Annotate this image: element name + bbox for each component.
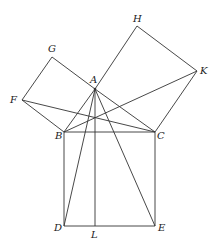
segment-AD: [64, 89, 95, 226]
label-point-g: G: [48, 44, 56, 54]
segment-AG: [52, 57, 95, 89]
segment-FC: [22, 100, 155, 132]
label-point-d: D: [54, 223, 62, 233]
label-point-e: E: [158, 223, 165, 233]
label-point-a: A: [90, 75, 97, 85]
vertex-a-dot: [94, 88, 97, 91]
label-point-f: F: [10, 95, 17, 105]
label-point-c: C: [157, 131, 165, 141]
label-point-b: B: [55, 131, 62, 141]
label-point-h: H: [133, 14, 142, 24]
segment-AH: [95, 26, 137, 89]
pythagorean-figure: [0, 0, 212, 244]
segment-BK: [64, 71, 197, 132]
segment-AE: [95, 89, 155, 226]
segment-HK: [137, 26, 197, 71]
label-point-l: L: [91, 230, 98, 240]
segment-GF: [22, 57, 52, 100]
geometry-diagram: ABCDELGFHK: [0, 0, 212, 244]
label-point-k: K: [200, 66, 207, 76]
